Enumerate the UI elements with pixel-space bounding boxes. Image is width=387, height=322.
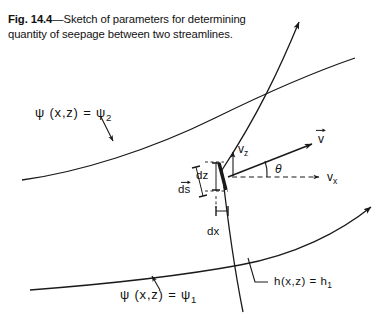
- upper-streamline-value: ψ: [96, 105, 106, 120]
- vector-accent-arrow: [316, 127, 327, 132]
- theta-angle-arc: [265, 161, 267, 177]
- velocity-z-subscript: z: [244, 148, 248, 158]
- ds-accent-arrow: [180, 179, 191, 184]
- lower-streamline-value: ψ: [181, 287, 191, 302]
- element-segment: [219, 163, 226, 190]
- lower-streamline-subscript: 1: [191, 294, 196, 305]
- velocity-vector-symbol: v: [318, 133, 324, 145]
- dz-label: dz: [196, 170, 208, 182]
- ds-tick-bottom: [199, 195, 207, 197]
- ds-symbol: ds: [178, 184, 190, 196]
- upper-streamline-subscript: 2: [106, 112, 111, 123]
- equipotential-label: h(x,z) = h1: [274, 276, 333, 290]
- theta-label: θ: [275, 163, 282, 175]
- upper-streamline-label: ψ (x,z) = ψ2: [35, 106, 111, 122]
- ds-tick-top: [192, 166, 200, 168]
- dx-label: dx: [207, 226, 219, 238]
- equipotential-subscript: 1: [327, 280, 332, 290]
- velocity-x-label: vx: [327, 171, 337, 186]
- lower-streamline-label: ψ (x,z) = ψ1: [120, 288, 196, 304]
- lower-streamline-function: ψ (x,z) =: [120, 287, 177, 302]
- velocity-z-label: vz: [238, 143, 248, 158]
- equipotential-function: h(x,z) =: [274, 275, 317, 287]
- upper-streamline-function: ψ (x,z) =: [35, 105, 92, 120]
- ds-label: ds: [178, 184, 190, 196]
- velocity-x-subscript: x: [333, 176, 337, 186]
- figure-seepage-parameters: Fig. 14.4—Sketch of parameters for deter…: [0, 0, 387, 322]
- velocity-vector-label: v: [318, 133, 324, 145]
- diagram-linework: [0, 0, 387, 322]
